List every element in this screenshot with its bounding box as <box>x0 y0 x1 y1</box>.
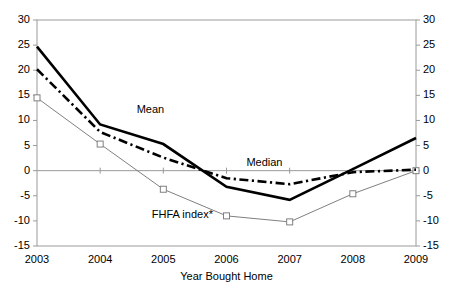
x-axis-label-2003: 2003 <box>11 254 63 265</box>
y-axis-label-left-0: 30 <box>0 14 30 25</box>
x-axis-title: Year Bought Home <box>37 270 416 282</box>
x-axis-label-2004: 2004 <box>74 254 126 265</box>
y-axis-label-right-3: 15 <box>423 89 469 100</box>
x-axis-label-2007: 2007 <box>264 254 316 265</box>
y-axis-label-left-6: 0 <box>0 165 30 176</box>
series-marker-fhfa-index <box>287 219 293 225</box>
y-axis-label-right-4: 10 <box>423 114 469 125</box>
series-line-mean <box>37 47 416 200</box>
series-marker-fhfa-index <box>350 191 356 197</box>
chart-container: 303025252020151510105500-5-5-10-10-15-15… <box>0 0 469 288</box>
x-axis-label-2006: 2006 <box>201 254 253 265</box>
y-axis-label-right-9: -15 <box>423 240 469 251</box>
x-axis-label-2009: 2009 <box>390 254 442 265</box>
y-axis-label-left-5: 5 <box>0 140 30 151</box>
series-marker-fhfa-index <box>160 186 166 192</box>
y-axis-label-left-2: 20 <box>0 64 30 75</box>
y-axis-label-right-6: 0 <box>423 165 469 176</box>
y-axis-label-left-9: -15 <box>0 240 30 251</box>
y-axis-label-right-1: 25 <box>423 39 469 50</box>
y-axis-label-right-0: 30 <box>423 14 469 25</box>
series-annotation-mean: Mean <box>137 104 165 115</box>
plot-frame <box>37 20 416 246</box>
series-marker-fhfa-index <box>34 95 40 101</box>
y-axis-label-left-1: 25 <box>0 39 30 50</box>
series-marker-fhfa-index <box>224 213 230 219</box>
y-axis-label-left-8: -10 <box>0 215 30 226</box>
chart-plot-svg <box>0 0 469 288</box>
y-axis-label-right-7: -5 <box>423 190 469 201</box>
y-axis-label-right-8: -10 <box>423 215 469 226</box>
y-axis-label-right-5: 5 <box>423 140 469 151</box>
series-annotation-fhfa-index: FHFA index* <box>152 209 213 220</box>
y-axis-label-left-3: 15 <box>0 89 30 100</box>
x-axis-label-2005: 2005 <box>137 254 189 265</box>
series-annotation-median: Median <box>246 157 282 168</box>
x-axis-label-2008: 2008 <box>327 254 379 265</box>
y-axis-label-left-7: -5 <box>0 190 30 201</box>
y-axis-label-left-4: 10 <box>0 114 30 125</box>
y-axis-label-right-2: 20 <box>423 64 469 75</box>
series-marker-fhfa-index <box>97 141 103 147</box>
